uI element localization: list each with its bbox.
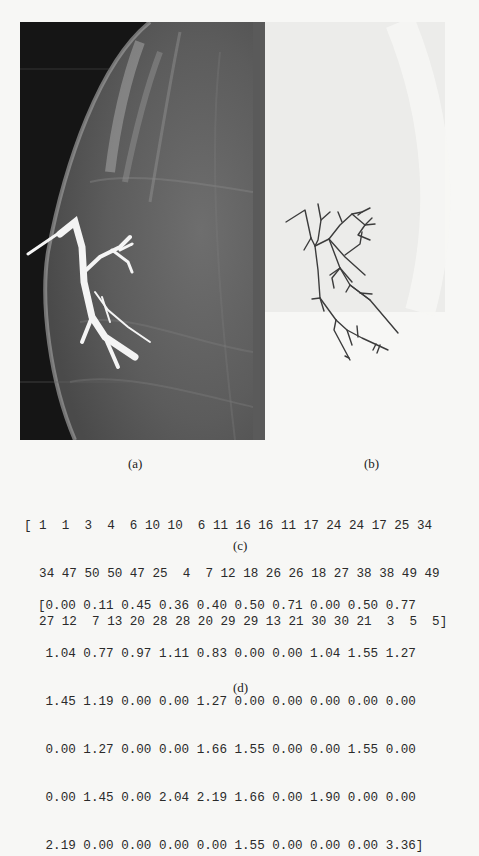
ductal-tree-diagram <box>253 22 457 440</box>
matrix-row: 2.19 0.00 0.00 0.00 0.00 1.55 0.00 0.00 … <box>38 838 423 854</box>
matrix-row: [0.00 0.11 0.45 0.36 0.40 0.50 0.71 0.00… <box>38 598 423 614</box>
matrix-row: 0.00 1.45 0.00 2.04 2.19 1.66 0.00 1.90 … <box>38 790 423 806</box>
feature-matrix: [0.00 0.11 0.45 0.36 0.40 0.50 0.71 0.00… <box>38 566 423 856</box>
tree-skeleton-illustration <box>253 22 457 440</box>
sequence-line: [ 1 1 3 4 6 10 10 6 11 16 16 11 17 24 24… <box>24 518 447 534</box>
mammogram-illustration <box>20 22 253 440</box>
matrix-row: 1.45 1.19 0.00 0.00 1.27 0.00 0.00 0.00 … <box>38 694 423 710</box>
caption-b: (b) <box>364 456 379 472</box>
matrix-row: 0.00 1.27 0.00 0.00 1.66 1.55 0.00 0.00 … <box>38 742 423 758</box>
matrix-row: 1.04 0.77 0.97 1.11 0.83 0.00 0.00 1.04 … <box>38 646 423 662</box>
mammogram-image <box>20 22 253 440</box>
caption-c: (c) <box>233 538 247 554</box>
caption-a: (a) <box>128 456 142 472</box>
caption-d: (d) <box>233 680 248 696</box>
